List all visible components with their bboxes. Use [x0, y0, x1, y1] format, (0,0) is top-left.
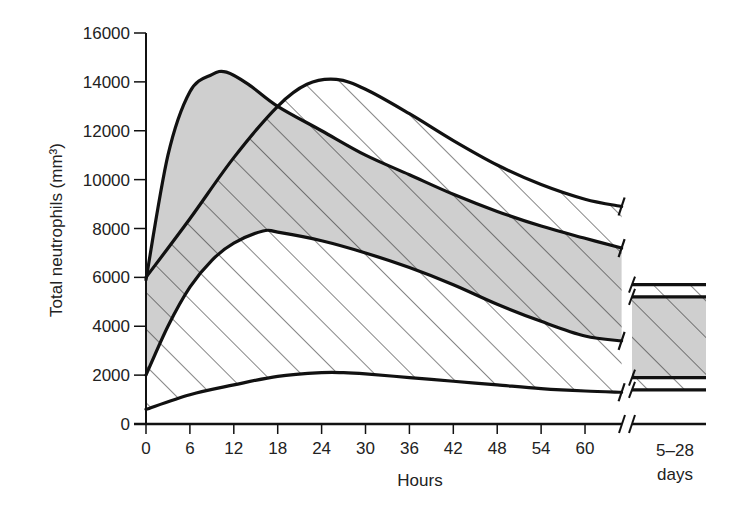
x-tick-label: 42 — [444, 439, 463, 458]
x-tick-label: 12 — [224, 439, 243, 458]
y-tick-label: 8000 — [92, 220, 130, 239]
y-tick-label: 2000 — [92, 366, 130, 385]
x-tick-label: 24 — [312, 439, 331, 458]
y-tick-label: 16000 — [83, 24, 130, 43]
y-tick-label: 12000 — [83, 122, 130, 141]
days-label-top: 5–28 — [656, 441, 694, 460]
plot-area — [146, 71, 706, 409]
y-axis-title: Total neutrophils (mm³) — [47, 143, 66, 317]
neutrophil-chart: 0200040006000800010000120001400016000061… — [0, 0, 739, 514]
x-tick-label: 30 — [356, 439, 375, 458]
x-tick-label: 48 — [488, 439, 507, 458]
days-label-bottom: days — [657, 465, 693, 484]
x-tick-label: 60 — [576, 439, 595, 458]
x-tick-label: 36 — [400, 439, 419, 458]
y-tick-label: 4000 — [92, 317, 130, 336]
y-tick-label: 14000 — [83, 73, 130, 92]
x-tick-label: 18 — [268, 439, 287, 458]
y-tick-label: 6000 — [92, 268, 130, 287]
x-tick-label: 54 — [532, 439, 551, 458]
y-tick-label: 10000 — [83, 171, 130, 190]
x-tick-label: 0 — [141, 439, 150, 458]
x-axis-title: Hours — [397, 471, 442, 490]
x-tick-label: 6 — [185, 439, 194, 458]
y-tick-label: 0 — [121, 415, 130, 434]
